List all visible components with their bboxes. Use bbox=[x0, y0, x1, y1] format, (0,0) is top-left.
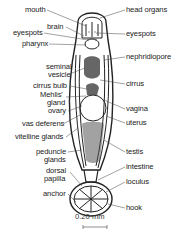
label-nephridiopore: nephridiopore bbox=[126, 53, 171, 61]
label-vagina: vagina bbox=[126, 105, 148, 113]
label-papilla: papilla bbox=[44, 175, 65, 183]
label-peduncle-glands: glands bbox=[44, 156, 66, 164]
label-uterus: uterus bbox=[126, 119, 147, 127]
label-testis: testis bbox=[126, 148, 143, 156]
scale-bar-label: 0.20 mm bbox=[75, 212, 105, 221]
label-cirrus-bulb: cirrus bulb bbox=[33, 82, 67, 90]
label-vesicle: vesicle bbox=[48, 71, 71, 79]
label-loculus: loculus bbox=[126, 178, 149, 186]
label-pharynx: pharynx bbox=[22, 40, 48, 48]
scale-bar bbox=[83, 225, 107, 229]
label-vas-deferens: vas deferens bbox=[22, 120, 64, 128]
label-head-organs: head organs bbox=[126, 6, 167, 14]
label-cirrus: cirrus bbox=[126, 80, 144, 88]
label-hook: hook bbox=[126, 204, 142, 212]
label-vitelline-glands: vitelline glands bbox=[15, 133, 63, 141]
anatomy-diagram: mouth brain eyespots pharynx seminal ves… bbox=[0, 0, 180, 236]
label-eyespots-right: eyespots bbox=[126, 30, 156, 38]
label-anchor: anchor bbox=[43, 190, 66, 198]
label-ovary: ovary bbox=[48, 107, 66, 115]
label-intestine: intestine bbox=[126, 163, 153, 171]
label-eyespots-left: eyespots bbox=[13, 29, 43, 37]
label-brain: brain bbox=[47, 23, 63, 31]
label-mouth: mouth bbox=[25, 6, 46, 14]
